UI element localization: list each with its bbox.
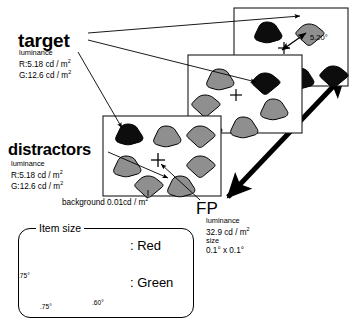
item-size-legend-title: Item size	[36, 222, 84, 234]
distractors-luminance-title: luminance	[11, 160, 63, 169]
fp-luminance-title: luminance	[206, 217, 250, 226]
distractors-luminance-block: luminance R:5.18 cd / m2 G:12.6 cd / m2	[11, 160, 63, 192]
background-luminance-label: background 0.01cd / m2	[62, 196, 148, 207]
target-luminance-block: luminance R:5.18 cd / m2 G:12.6 cd / m2	[19, 49, 71, 81]
figure-root: target luminance R:5.18 cd / m2 G:12.6 c…	[0, 0, 355, 330]
legend-green-label: : Green	[130, 275, 173, 290]
fp-size-title: size	[206, 237, 250, 246]
legend-dim-width-gem: .60°	[92, 299, 104, 306]
legend-red-label: : Red	[130, 238, 161, 253]
eccentricity-label: 5.20°	[310, 33, 328, 42]
target-luminance-red: R:5.18 cd / m2	[19, 58, 71, 69]
target-luminance-green: G:12.6 cd / m2	[19, 69, 71, 80]
distractors-luminance-red: R:5.18 cd / m2	[11, 169, 63, 180]
fp-luminance-block: luminance 32.9 cd / m2 size 0.1° x 0.1°	[206, 217, 250, 256]
panel-front	[103, 116, 221, 197]
fp-size-value: 0.1° x 0.1°	[206, 246, 250, 256]
target-luminance-title: luminance	[19, 49, 71, 58]
distractors-heading: distractors	[8, 140, 91, 159]
distractors-luminance-green: G:12.6 cd / m2	[11, 180, 63, 191]
legend-dim-height: .75°	[18, 272, 30, 279]
legend-dim-width: .75°	[40, 303, 52, 310]
